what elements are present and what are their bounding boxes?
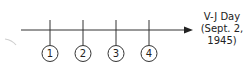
end-label-line2: (Sept. 2, <box>196 23 247 35</box>
marker-label: 2 <box>80 48 86 59</box>
decorative-mark <box>5 39 16 45</box>
end-label-line3: 1945) <box>196 35 247 47</box>
marker-3: 3 <box>108 20 124 62</box>
marker-4: 4 <box>141 20 157 62</box>
arrow-right-icon <box>184 27 193 34</box>
marker-label: 1 <box>47 48 53 59</box>
marker-1: 1 <box>42 20 58 62</box>
end-event-label: V-J Day (Sept. 2, 1945) <box>196 11 247 47</box>
marker-2: 2 <box>75 20 91 62</box>
marker-label: 4 <box>146 48 152 59</box>
marker-label: 3 <box>113 48 119 59</box>
end-label-line1: V-J Day <box>196 11 247 23</box>
